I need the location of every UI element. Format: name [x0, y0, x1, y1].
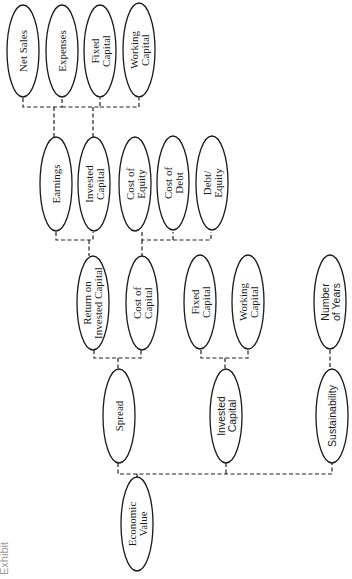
- node-working-capital-mid: Working Capital: [232, 255, 264, 349]
- svg-text:Spread: Spread: [113, 400, 125, 431]
- svg-text:of Years: of Years: [330, 283, 342, 321]
- connector-root: [118, 463, 332, 474]
- svg-text:Equity: Equity: [212, 168, 224, 198]
- svg-text:Value: Value: [137, 511, 149, 536]
- node-sustainability: Sustainability: [316, 369, 348, 463]
- node-net-sales: Net Sales: [7, 5, 39, 97]
- node-spread: Spread: [103, 369, 135, 463]
- svg-text:Expenses: Expenses: [56, 30, 68, 72]
- connector-fixed-working-capital-top: [62, 98, 139, 107]
- connector-earnings-invested: [56, 232, 93, 240]
- node-invested-capital-l3: Invested Capital: [78, 137, 110, 231]
- node-cost-of-equity: Cost of Equity: [119, 137, 151, 231]
- svg-text:Capital: Capital: [248, 286, 260, 318]
- node-invested-capital-mid: Invested Capital: [210, 369, 242, 463]
- node-number-of-years: Number of Years: [314, 255, 346, 349]
- node-fixed-capital-mid: Fixed Capital: [184, 255, 216, 349]
- exhibit-title-fragment: Exhibit: [0, 542, 10, 575]
- node-working-capital-top: Working Capital: [123, 3, 155, 97]
- svg-text:Sustainability: Sustainability: [326, 384, 338, 447]
- node-earnings: Earnings: [40, 137, 72, 231]
- svg-text:Capital: Capital: [100, 35, 112, 67]
- svg-text:Net Sales: Net Sales: [17, 30, 29, 72]
- connector-cost-components: [142, 232, 211, 240]
- svg-text:Invested Capital: Invested Capital: [92, 267, 104, 339]
- svg-text:Capital: Capital: [94, 168, 106, 200]
- node-fixed-capital-top: Fixed Capital: [84, 5, 116, 97]
- node-expenses: Expenses: [46, 5, 78, 97]
- node-debt-equity: Debt/ Equity: [196, 136, 228, 230]
- svg-text:Capital: Capital: [226, 400, 238, 433]
- svg-text:Equity: Equity: [135, 169, 147, 199]
- connector-roic-coc: [94, 350, 141, 358]
- svg-text:Capital: Capital: [139, 34, 151, 66]
- connector-net-sales-expenses: [23, 98, 62, 107]
- node-cost-of-capital: Cost of Capital: [126, 256, 158, 350]
- node-cost-of-debt: Cost of Debt: [157, 136, 189, 230]
- node-return-on-invested-capital: Return on Invested Capital: [77, 256, 109, 350]
- economic-value-tree-diagram: Exhibit Net Sales Expenses Fixed Capital…: [0, 0, 352, 579]
- svg-text:Earnings: Earnings: [50, 164, 62, 203]
- svg-text:Capital: Capital: [200, 286, 212, 318]
- svg-text:Debt: Debt: [173, 172, 185, 193]
- node-economic-value: Economic Value: [121, 477, 153, 571]
- connector-fc-wc: [201, 350, 248, 358]
- svg-text:Capital: Capital: [142, 287, 154, 319]
